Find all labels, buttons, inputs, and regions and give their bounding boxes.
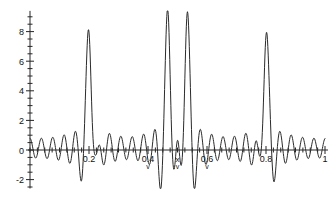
chart-figure: -202468 0.20.40.60.81 vxvv bbox=[0, 0, 336, 214]
y-tick-label: 4 bbox=[19, 86, 24, 96]
y-tick-label-group: -202468 bbox=[16, 27, 24, 185]
x-tick-label: 0.2 bbox=[83, 154, 96, 164]
line-chart: -202468 0.20.40.60.81 vxvv bbox=[0, 0, 336, 214]
y-tick-label: 8 bbox=[19, 27, 24, 37]
y-tick-label: -2 bbox=[16, 175, 24, 185]
x-tick-label: 0.8 bbox=[260, 154, 273, 164]
y-tick-label: 2 bbox=[19, 116, 24, 126]
annotation-marker: v bbox=[176, 163, 180, 170]
x-tick-label: 1 bbox=[322, 154, 327, 164]
annotation-marker: v bbox=[205, 163, 209, 170]
y-tick-label: 0 bbox=[19, 146, 24, 156]
annotation-marker: v bbox=[146, 163, 150, 170]
vertical-axis bbox=[26, 11, 34, 189]
y-tick-label: 6 bbox=[19, 57, 24, 67]
